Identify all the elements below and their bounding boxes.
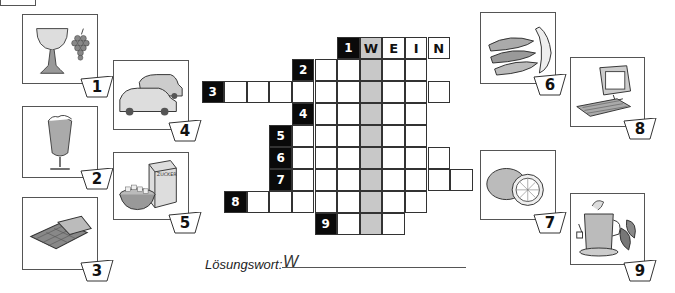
solution-letter-cell[interactable] <box>360 147 383 169</box>
letter-cell[interactable] <box>382 191 405 213</box>
letter-cell[interactable] <box>292 81 315 103</box>
letter-cell[interactable] <box>428 147 451 169</box>
solution-letter-cell[interactable] <box>360 59 383 81</box>
letter-cell[interactable] <box>337 147 360 169</box>
picture-number-tag: 7 <box>533 212 567 234</box>
picture-number-tag: 5 <box>168 212 202 234</box>
letter-cell[interactable] <box>337 213 360 235</box>
solution-letter-cell[interactable] <box>360 213 383 235</box>
lemon-icon <box>481 151 555 219</box>
letter-cell[interactable] <box>315 59 338 81</box>
picture-number: 4 <box>168 122 202 140</box>
wine-glass-and-grapes-icon <box>23 15 97 83</box>
picture-number: 5 <box>168 214 202 232</box>
letter-cell[interactable] <box>405 169 428 191</box>
picture-number-tag: 2 <box>80 168 114 190</box>
picture-number: 2 <box>80 170 114 188</box>
letter-cell[interactable]: N <box>428 37 451 59</box>
svg-text:ZUCKER: ZUCKER <box>157 172 178 177</box>
letter-cell[interactable] <box>224 81 247 103</box>
picture-clue-9 <box>570 193 645 265</box>
picture-number-tag: 4 <box>168 120 202 142</box>
solution-letter-cell[interactable] <box>360 169 383 191</box>
letter-cell[interactable] <box>292 191 315 213</box>
clue-number-cell: 8 <box>224 191 247 213</box>
picture-number-tag: 1 <box>80 76 114 98</box>
letter-cell[interactable] <box>337 59 360 81</box>
clue-number-cell: 4 <box>292 103 315 125</box>
picture-number-tag: 6 <box>533 74 567 96</box>
letter-cell[interactable] <box>315 125 338 147</box>
letter-cell[interactable]: I <box>405 37 428 59</box>
letter-cell[interactable] <box>450 169 473 191</box>
picture-clue-5: ZUCKER <box>113 152 189 220</box>
picture-number: 1 <box>80 78 114 96</box>
solution-letter-cell[interactable]: W <box>360 37 383 59</box>
letter-cell[interactable] <box>315 81 338 103</box>
computer-icon <box>571 58 644 126</box>
letter-cell[interactable] <box>292 125 315 147</box>
clue-number-cell: 2 <box>292 59 315 81</box>
letter-cell[interactable] <box>315 103 338 125</box>
sparkling-wine-glass-icon <box>23 107 97 177</box>
letter-cell[interactable] <box>405 191 428 213</box>
tea-glass-and-leaves-icon <box>571 194 644 264</box>
letter-cell[interactable] <box>315 169 338 191</box>
letter-cell[interactable] <box>405 103 428 125</box>
letter-cell[interactable] <box>382 59 405 81</box>
solution-label: Lösungswort: <box>205 257 282 272</box>
letter-cell[interactable] <box>337 81 360 103</box>
letter-cell[interactable] <box>382 125 405 147</box>
letter-cell[interactable] <box>405 147 428 169</box>
clue-number-cell: 3 <box>202 81 225 103</box>
letter-cell[interactable] <box>269 81 292 103</box>
solution-letter-cell[interactable] <box>360 125 383 147</box>
letter-cell[interactable] <box>292 169 315 191</box>
picture-number: 9 <box>623 262 657 280</box>
clue-number-cell: 5 <box>269 125 292 147</box>
letter-cell[interactable] <box>382 147 405 169</box>
letter-cell[interactable] <box>269 191 292 213</box>
chocolate-bar-icon <box>23 198 97 269</box>
picture-clue-1 <box>22 14 98 84</box>
clue-number-cell: 1 <box>337 37 360 59</box>
letter-cell[interactable] <box>247 191 270 213</box>
letter-cell[interactable]: E <box>382 37 405 59</box>
letter-cell[interactable] <box>315 147 338 169</box>
picture-number: 8 <box>623 120 657 138</box>
letter-cell[interactable] <box>382 103 405 125</box>
picture-number-tag: 8 <box>623 118 657 140</box>
letter-cell[interactable] <box>382 213 405 235</box>
letter-cell[interactable] <box>382 169 405 191</box>
letter-cell[interactable] <box>337 191 360 213</box>
letter-cell[interactable] <box>405 81 428 103</box>
picture-number-tag: 3 <box>80 260 114 282</box>
clue-number-cell: 7 <box>269 169 292 191</box>
letter-cell[interactable] <box>337 103 360 125</box>
letter-cell[interactable] <box>337 169 360 191</box>
letter-cell[interactable] <box>428 169 451 191</box>
letter-cell[interactable] <box>405 59 428 81</box>
letter-cell[interactable] <box>405 125 428 147</box>
picture-number-tag: 9 <box>623 260 657 282</box>
picture-clue-8 <box>570 57 645 127</box>
letter-cell[interactable] <box>315 191 338 213</box>
picture-number: 3 <box>80 262 114 280</box>
letter-cell[interactable] <box>292 147 315 169</box>
solution-line <box>282 267 466 268</box>
solution-input[interactable]: W <box>283 253 298 271</box>
letter-cell[interactable] <box>247 81 270 103</box>
letter-cell[interactable] <box>382 81 405 103</box>
letter-cell[interactable] <box>428 81 451 103</box>
clue-number-cell: 9 <box>315 213 338 235</box>
picture-clue-7 <box>480 150 556 220</box>
corner-box <box>0 0 36 6</box>
sugar-box-and-bowl-icon: ZUCKER <box>114 153 188 219</box>
solution-letter-cell[interactable] <box>360 81 383 103</box>
bananas-icon <box>481 13 555 83</box>
picture-number: 7 <box>533 214 567 232</box>
solution-letter-cell[interactable] <box>360 191 383 213</box>
letter-cell[interactable] <box>337 125 360 147</box>
solution-letter-cell[interactable] <box>360 103 383 125</box>
clue-number-cell: 6 <box>269 147 292 169</box>
